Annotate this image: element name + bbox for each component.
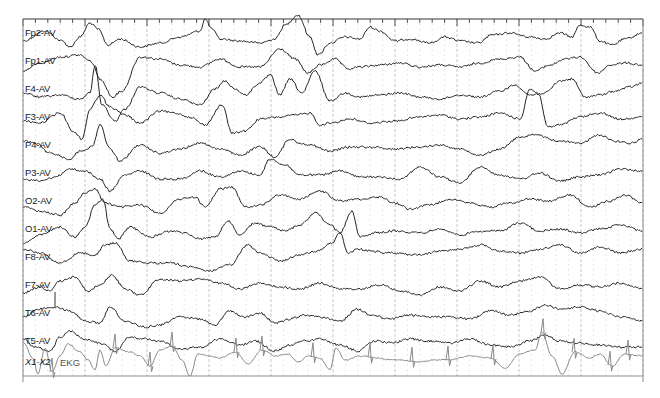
eeg-trace-viewer: Fp2-AV Fp1-AV F4-AV F3-AV P4-AV P3-AV O2…	[0, 0, 660, 398]
channel-label-fp1[interactable]: Fp1-AV	[25, 55, 55, 66]
ekg-qrs-spike	[491, 345, 496, 365]
ekg-qrs-spike	[170, 332, 175, 352]
channel-label-fp2[interactable]: Fp2-AV	[25, 27, 55, 38]
channel-label-o2[interactable]: O2-AV	[25, 195, 52, 206]
ekg-qrs-spike	[608, 351, 613, 371]
channel-label-f4[interactable]: F4-AV	[25, 83, 50, 94]
ekg-qrs-spike	[234, 338, 239, 358]
channel-label-ekg[interactable]: X1-X2	[25, 356, 50, 367]
channel-label-t6[interactable]: T6-AV	[25, 307, 50, 318]
channel-label-f7[interactable]: F7-AV	[25, 279, 50, 290]
ekg-qrs-spike	[311, 343, 316, 363]
channel-label-t5[interactable]: T5-AV	[25, 335, 50, 346]
channel-label-o1[interactable]: O1-AV	[25, 223, 52, 234]
ekg-qrs-spike	[626, 340, 631, 360]
ekg-qrs-spike	[148, 352, 153, 372]
channel-label-p4[interactable]: P4-AV	[25, 139, 51, 150]
channel-label-f8[interactable]: F8-AV	[25, 251, 50, 262]
channel-label-p3[interactable]: P3-AV	[25, 167, 51, 178]
ekg-tag: EKG	[60, 357, 80, 368]
ekg-qrs-spike	[410, 347, 415, 367]
channel-label-f3[interactable]: F3-AV	[25, 111, 50, 122]
eeg-waveform-canvas	[0, 0, 660, 398]
ekg-qrs-spike	[446, 346, 451, 366]
